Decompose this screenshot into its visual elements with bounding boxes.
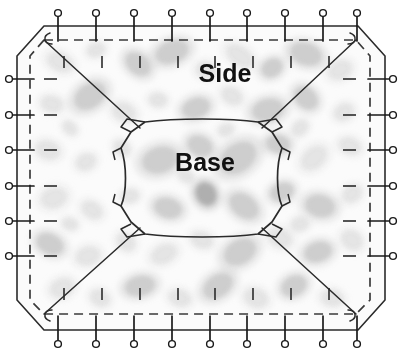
pin-head-icon	[354, 10, 361, 17]
pin-head-icon	[6, 183, 13, 190]
pin-head-icon	[207, 341, 214, 348]
pin-head-icon	[390, 76, 397, 83]
pin-head-icon	[320, 10, 327, 17]
pin-head-icon	[6, 218, 13, 225]
pin-head-icon	[6, 253, 13, 260]
pin-head-icon	[169, 341, 176, 348]
pin-head-icon	[390, 218, 397, 225]
pin-head-icon	[282, 10, 289, 17]
pin-head-icon	[93, 10, 100, 17]
pin-head-icon	[169, 10, 176, 17]
pin-head-icon	[354, 341, 361, 348]
pin-head-icon	[131, 10, 138, 17]
pin-head-icon	[390, 147, 397, 154]
pin-head-icon	[244, 341, 251, 348]
pin-head-icon	[390, 112, 397, 119]
pin-head-icon	[93, 341, 100, 348]
base-panel-label: Base	[175, 148, 235, 176]
pin-head-icon	[207, 10, 214, 17]
pin-head-icon	[6, 76, 13, 83]
pin-head-icon	[6, 112, 13, 119]
pin-head-icon	[390, 183, 397, 190]
pin-head-icon	[55, 341, 62, 348]
pin-head-icon	[282, 341, 289, 348]
pin-head-icon	[390, 253, 397, 260]
diagram-canvas: Side Base	[0, 0, 402, 357]
pin-head-icon	[6, 147, 13, 154]
pattern-diagram: Side Base	[0, 0, 402, 357]
pin-head-icon	[244, 10, 251, 17]
pin-head-icon	[55, 10, 62, 17]
side-panel-label: Side	[199, 59, 252, 87]
pin-head-icon	[320, 341, 327, 348]
pin-head-icon	[131, 341, 138, 348]
